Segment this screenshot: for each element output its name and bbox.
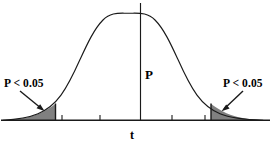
right-tail-pvalue-label: P < 0.05 [223, 78, 263, 90]
distribution-plot [0, 0, 278, 147]
center-region-label: P [145, 68, 153, 81]
bell-curve [3, 13, 263, 120]
left-annotation-arrow [20, 91, 45, 111]
right-annotation-arrow [222, 91, 244, 111]
distribution-figure: P < 0.05 P < 0.05 P t [0, 0, 278, 147]
x-axis-ticks [62, 115, 205, 120]
x-axis-label: t [130, 129, 134, 141]
left-critical-region-shading [5, 104, 56, 120]
left-tail-pvalue-label: P < 0.05 [4, 78, 44, 90]
